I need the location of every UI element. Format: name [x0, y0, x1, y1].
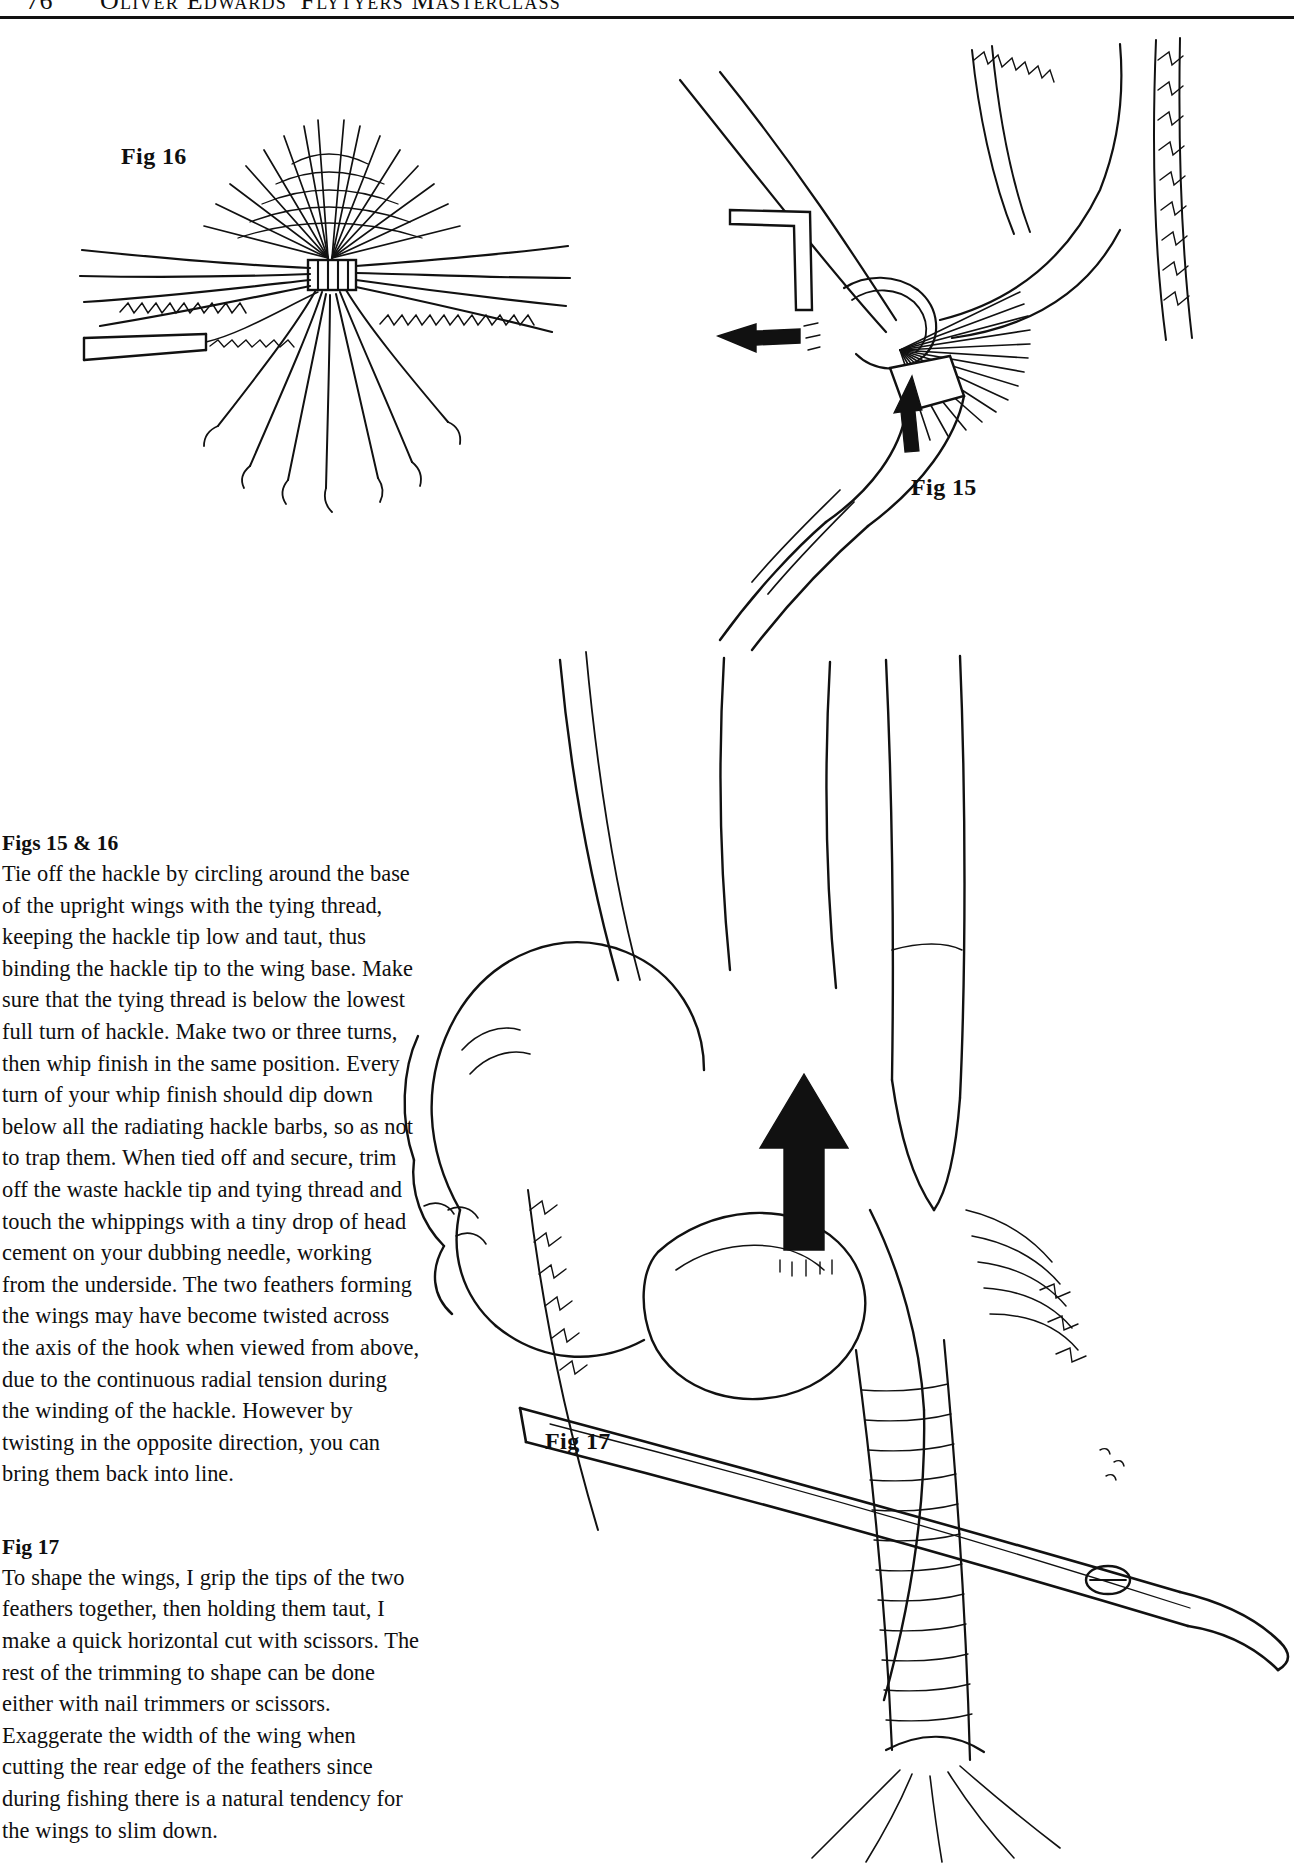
fig17-label: Fig 17 — [545, 1428, 611, 1455]
book-page: 76 Oliver Edwards' Flytyers Masterclass — [0, 0, 1294, 1864]
fig17-illustration — [400, 650, 1294, 1864]
paragraph-spacer — [2, 1490, 420, 1534]
section-body-figs-15-16: Tie off the hackle by circling around th… — [2, 858, 420, 1490]
page-number: 76 — [26, 0, 53, 16]
running-head-title: Oliver Edwards' Flytyers Masterclass — [100, 0, 561, 16]
section-heading-fig-17: Fig 17 — [2, 1534, 420, 1560]
header-rule — [0, 16, 1294, 19]
fig16-label: Fig 16 — [121, 143, 187, 170]
running-header: 76 Oliver Edwards' Flytyers Masterclass — [0, 0, 1294, 16]
section-heading-figs-15-16: Figs 15 & 16 — [2, 830, 420, 856]
section-body-fig-17: To shape the wings, I grip the tips of t… — [2, 1562, 420, 1846]
fig15-illustration — [600, 20, 1220, 670]
fig16-illustration — [60, 110, 580, 540]
text-column: Figs 15 & 16 Tie off the hackle by circl… — [2, 830, 420, 1846]
fig15-label: Fig 15 — [911, 474, 977, 501]
